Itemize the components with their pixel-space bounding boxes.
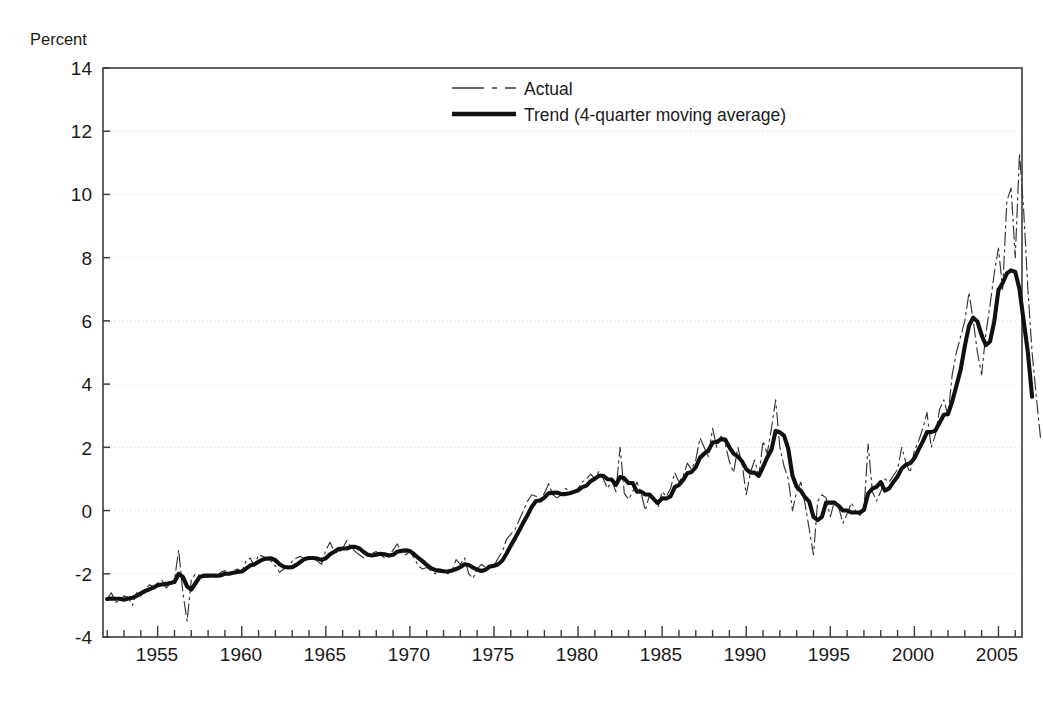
- chart-figure: Percent 14 12 10 8 6 4 2 0 -2 -4 1955 19…: [0, 0, 1043, 702]
- axis-ticks-group: [103, 68, 1015, 637]
- chart-canvas: [0, 0, 1043, 702]
- series-line-actual: [107, 153, 1040, 621]
- legend-label-actual: Actual: [524, 81, 573, 99]
- plot-frame: [103, 68, 1022, 637]
- series-line-trend: [107, 270, 1032, 599]
- legend-label-trend: Trend (4-quarter moving average): [524, 107, 786, 125]
- gridlines-group: [103, 131, 1022, 574]
- y-axis-title: Percent: [30, 31, 87, 48]
